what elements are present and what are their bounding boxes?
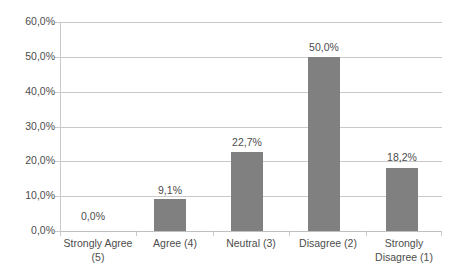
y-axis-label-10: 10,0% <box>3 190 55 201</box>
y-axis-line <box>60 22 61 232</box>
x-axis-label-line1: Neutral (3) <box>212 236 290 250</box>
x-axis-labels: Strongly Agree (5) Agree (4) Neutral (3)… <box>60 236 442 274</box>
data-label-strongly-disagree: 18,2% <box>367 151 437 163</box>
plot-area: 0,0% 9,1% 22,7% 50,0% 18,2% <box>60 22 442 231</box>
data-label-neutral: 22,7% <box>212 136 282 148</box>
y-tick-50 <box>55 57 60 58</box>
bar-agree[interactable] <box>154 199 186 231</box>
y-tick-20 <box>55 161 60 162</box>
x-axis-label-line1: Disagree (2) <box>289 236 367 250</box>
data-label-agree: 9,1% <box>135 184 205 196</box>
bar-strongly-disagree[interactable] <box>386 168 418 231</box>
data-label-strongly-agree: 0,0% <box>58 210 128 222</box>
gridline-50 <box>60 57 442 58</box>
x-axis-label-line1: Agree (4) <box>136 236 214 250</box>
y-axis-labels: 60,0% 50,0% 40,0% 30,0% 20,0% 10,0% 0,0% <box>0 0 55 274</box>
y-tick-60 <box>55 22 60 23</box>
x-axis-label-line1: Strongly Agree <box>59 236 137 250</box>
x-axis-label-line1: Strongly <box>365 236 443 250</box>
bar-disagree[interactable] <box>308 57 340 231</box>
y-axis-label-20: 20,0% <box>3 155 55 166</box>
data-label-disagree: 50,0% <box>289 41 359 53</box>
gridline-40 <box>60 92 442 93</box>
gridline-30 <box>60 127 442 128</box>
y-tick-10 <box>55 196 60 197</box>
gridline-60 <box>60 22 442 23</box>
y-axis-label-40: 40,0% <box>3 86 55 97</box>
y-axis-label-60: 60,0% <box>3 16 55 27</box>
x-axis-label-disagree: Disagree (2) <box>289 236 367 250</box>
y-axis-label-0: 0,0% <box>3 225 55 236</box>
y-tick-40 <box>55 92 60 93</box>
x-axis-label-strongly-agree: Strongly Agree (5) <box>59 236 137 264</box>
y-axis-label-50: 50,0% <box>3 51 55 62</box>
x-axis-label-neutral: Neutral (3) <box>212 236 290 250</box>
y-tick-30 <box>55 127 60 128</box>
bar-neutral[interactable] <box>231 152 263 231</box>
bar-chart: 0,0% 9,1% 22,7% 50,0% 18,2% 60,0% 50,0% … <box>0 0 454 274</box>
x-axis-label-line2: (5) <box>59 250 137 264</box>
x-axis-label-agree: Agree (4) <box>136 236 214 250</box>
y-axis-label-30: 30,0% <box>3 121 55 132</box>
x-axis-label-line2: Disagree (1) <box>365 250 443 264</box>
x-axis-label-strongly-disagree: Strongly Disagree (1) <box>365 236 443 264</box>
